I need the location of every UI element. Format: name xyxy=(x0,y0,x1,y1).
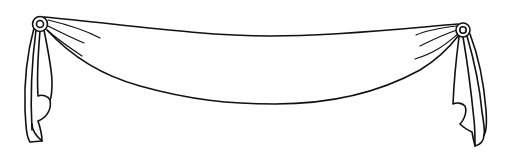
swag-body xyxy=(44,17,459,104)
right-rosette xyxy=(456,23,470,37)
left-tail xyxy=(25,28,52,142)
drape-drawing xyxy=(0,0,510,155)
swag-banner-illustration xyxy=(0,0,510,155)
right-tail xyxy=(453,34,486,146)
left-rosette xyxy=(33,17,48,32)
